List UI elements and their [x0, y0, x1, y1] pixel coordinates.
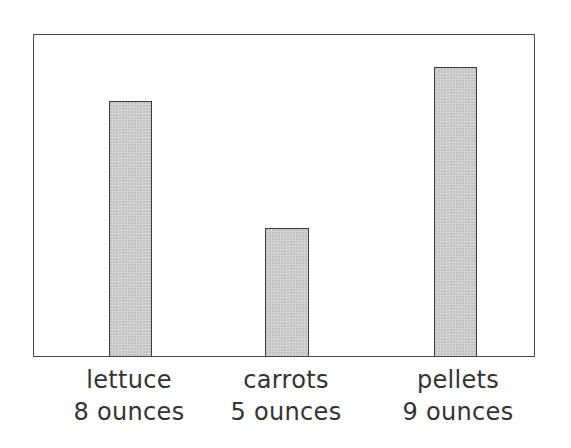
category-value: 5 ounces: [201, 396, 371, 428]
bar-pellets: [434, 67, 477, 356]
bar-carrots: [265, 228, 309, 356]
category-name: carrots: [201, 364, 371, 396]
category-value: 8 ounces: [44, 396, 214, 428]
category-value: 9 ounces: [373, 396, 543, 428]
bar-lettuce: [109, 101, 152, 356]
chart-frame: [33, 34, 535, 357]
category-name: pellets: [373, 364, 543, 396]
category-label-lettuce: lettuce 8 ounces: [44, 364, 214, 428]
category-label-pellets: pellets 9 ounces: [373, 364, 543, 428]
category-name: lettuce: [44, 364, 214, 396]
category-label-carrots: carrots 5 ounces: [201, 364, 371, 428]
